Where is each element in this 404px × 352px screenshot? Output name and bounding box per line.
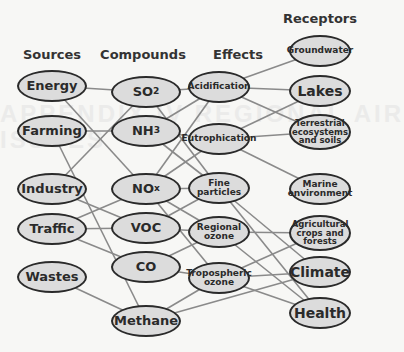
effects-label: Tropospheric ozone — [186, 269, 252, 288]
sources-node-energy: Energy — [17, 70, 87, 102]
sources-label: Industry — [21, 182, 83, 196]
receptors-node-marine: Marine environment — [289, 173, 351, 205]
compounds-label: NO — [132, 182, 154, 196]
receptors-label: Climate — [290, 265, 350, 280]
sources-label: Wastes — [25, 270, 78, 284]
compounds-label: SO — [133, 85, 153, 99]
receptors-node-ground: Groundwater — [289, 35, 351, 67]
compounds-node-co: CO — [111, 251, 181, 283]
compounds-node-methane: Methane — [111, 305, 181, 337]
sources-label: Farming — [22, 124, 82, 138]
receptors-label: Marine environment — [288, 180, 353, 199]
effects-label: Acidification — [188, 82, 251, 91]
sources-node-industry: Industry — [17, 173, 87, 205]
subscript: x — [154, 184, 160, 194]
effects-node-tropoz: Tropospheric ozone — [188, 262, 250, 294]
effects-label: Fine particles — [190, 179, 248, 198]
sources-node-wastes: Wastes — [17, 261, 87, 293]
receptors-label: Lakes — [297, 84, 342, 99]
compounds-label: Methane — [114, 314, 178, 328]
sources-node-traffic: Traffic — [17, 213, 87, 245]
subscript: 3 — [154, 126, 160, 136]
header-effects: Effects — [213, 47, 263, 62]
compounds-node-so2: SO2 — [111, 76, 181, 108]
receptors-label: Health — [294, 306, 346, 321]
compounds-label: CO — [136, 260, 157, 274]
receptors-label: Groundwater — [287, 46, 354, 55]
effects-label: Regional ozone — [190, 223, 248, 242]
receptors-label: Agricultural crops and forests — [291, 220, 349, 247]
sources-label: Traffic — [30, 222, 75, 236]
header-sources: Sources — [23, 47, 81, 62]
receptors-node-terr: Terrestrial ecosystems and soils — [289, 114, 351, 150]
receptors-node-climate: Climate — [289, 256, 351, 288]
receptors-node-agri: Agricultural crops and forests — [289, 215, 351, 251]
sources-label: Energy — [26, 79, 77, 93]
compounds-node-nox: NOx — [111, 173, 181, 205]
compounds-node-nh3: NH3 — [111, 115, 181, 147]
sources-node-farming: Farming — [17, 115, 87, 147]
compounds-node-voc: VOC — [111, 212, 181, 244]
effects-node-eutro: Eutrophication — [188, 123, 250, 155]
header-receptors: Receptors — [283, 11, 357, 26]
subscript: 2 — [153, 87, 159, 97]
header-compounds: Compounds — [100, 47, 186, 62]
receptors-node-health: Health — [289, 297, 351, 329]
compounds-label: VOC — [131, 221, 161, 235]
receptors-node-lakes: Lakes — [289, 75, 351, 107]
effects-node-acid: Acidification — [188, 71, 250, 103]
edge-fine-health — [219, 188, 320, 313]
effects-label: Eutrophication — [182, 134, 257, 143]
receptors-label: Terrestrial ecosystems and soils — [291, 119, 349, 146]
effects-node-fine: Fine particles — [188, 172, 250, 204]
effects-node-regoz: Regional ozone — [188, 216, 250, 248]
compounds-label: NH — [132, 124, 154, 138]
